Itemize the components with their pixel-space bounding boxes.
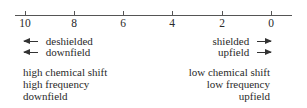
upfield-text: upfield xyxy=(189,90,270,102)
tick-4 xyxy=(172,11,173,16)
downfield-text: downfield xyxy=(23,90,107,102)
tick-label-2: 2 xyxy=(212,17,232,29)
high-frequency-text: high frequency xyxy=(23,78,107,90)
tick-label-8: 8 xyxy=(64,17,84,29)
downfield-arrow-label: downfield xyxy=(46,46,91,58)
tick-6 xyxy=(123,11,124,16)
left-arrow-icon xyxy=(24,46,38,58)
tick-8 xyxy=(74,11,75,16)
tick-label-10: 10 xyxy=(15,17,35,29)
upfield-arrow-row: upfield xyxy=(218,46,271,58)
low-chemical-shift-text: low chemical shift xyxy=(189,66,270,78)
right-arrow-icon xyxy=(257,46,271,58)
high-shift-description: high chemical shift high frequency downf… xyxy=(23,66,107,102)
downfield-arrow-row: downfield xyxy=(24,46,90,58)
low-shift-description: low chemical shift low frequency upfield xyxy=(189,66,270,102)
tick-10 xyxy=(25,11,26,16)
high-chemical-shift-text: high chemical shift xyxy=(23,66,107,78)
tick-2 xyxy=(222,11,223,16)
tick-label-4: 4 xyxy=(162,17,182,29)
upfield-arrow-label: upfield xyxy=(218,46,249,58)
tick-label-0: 0 xyxy=(261,17,281,29)
tick-0 xyxy=(271,11,272,16)
axis-line xyxy=(15,15,292,16)
low-frequency-text: low frequency xyxy=(189,78,270,90)
tick-label-6: 6 xyxy=(113,17,133,29)
